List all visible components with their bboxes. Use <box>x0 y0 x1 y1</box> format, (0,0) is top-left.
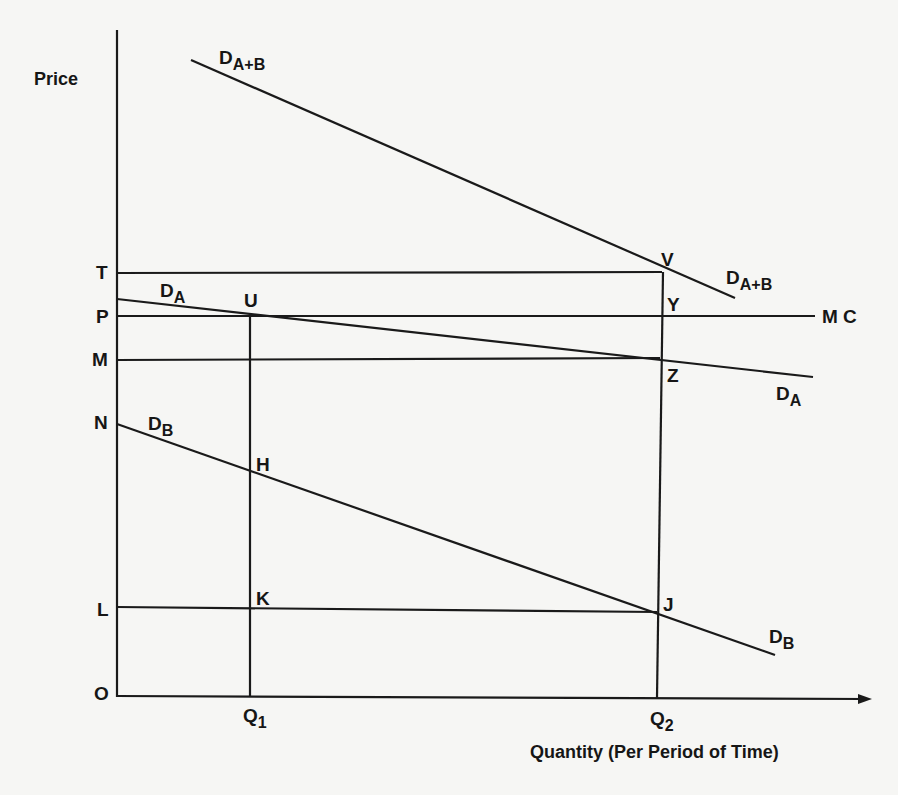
curve-label-d-b-end: DB <box>769 627 794 652</box>
demand-curve-a <box>117 299 813 377</box>
quantity-line-Q2 <box>657 272 663 698</box>
price-quantity-diagram <box>0 0 898 795</box>
curve-label-d-a-plus-b-end: DA+B <box>726 268 772 293</box>
curve-label-mc: M C <box>822 307 857 326</box>
price-label-N: N <box>94 413 108 432</box>
curve-label-d-a-start: DA <box>160 281 185 306</box>
price-line-T <box>117 272 662 273</box>
point-label-Y: Y <box>667 295 680 314</box>
point-label-U: U <box>244 291 258 310</box>
point-label-H: H <box>256 455 270 474</box>
y-axis-label: Price <box>34 69 78 90</box>
curve-label-d-b-start: DB <box>148 414 173 439</box>
price-line-L <box>117 607 657 612</box>
quantity-label-Q2: Q2 <box>650 709 674 734</box>
demand-curve-b <box>117 424 775 655</box>
origin-label: O <box>94 684 109 703</box>
price-label-M: M <box>92 350 108 369</box>
x-axis-arrow-icon <box>858 694 872 704</box>
price-line-M <box>117 358 660 360</box>
point-label-K: K <box>256 589 270 608</box>
price-label-T: T <box>96 263 108 282</box>
point-label-J: J <box>663 595 674 614</box>
x-axis-label: Quantity (Per Period of Time) <box>530 742 779 763</box>
demand-curve-a-plus-b <box>191 60 735 298</box>
x-axis <box>116 696 866 699</box>
point-label-V: V <box>661 250 674 269</box>
quantity-label-Q1: Q1 <box>243 706 267 731</box>
price-label-L: L <box>97 600 109 619</box>
curve-label-d-a-plus-b-top: DA+B <box>219 48 265 73</box>
point-label-Z: Z <box>667 366 679 385</box>
curve-label-d-a-end: DA <box>776 384 801 409</box>
price-label-P: P <box>96 307 109 326</box>
